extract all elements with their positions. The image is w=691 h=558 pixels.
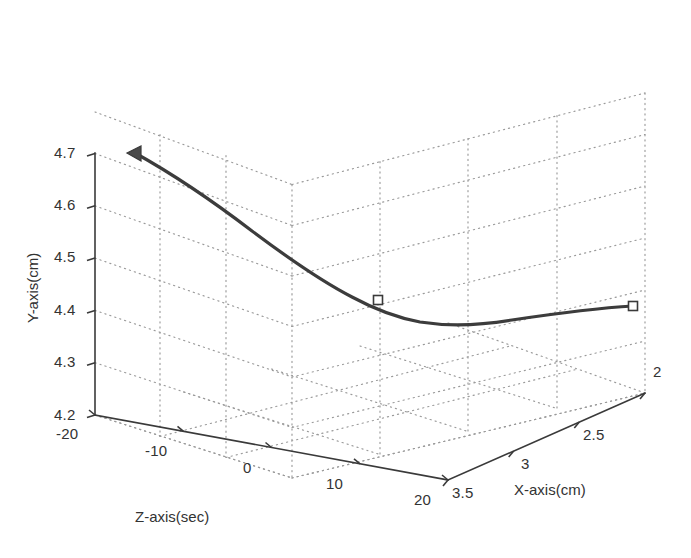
z-tick-label-20: 20 bbox=[414, 491, 431, 508]
y-tick-label-4-3: 4.3 bbox=[54, 353, 75, 370]
y-axis-title: Y-axis(cm) bbox=[24, 253, 41, 323]
y-tick-label-4-6: 4.6 bbox=[54, 196, 75, 213]
y-tick-label-4-5: 4.5 bbox=[54, 248, 75, 265]
x-axis-title: X-axis(cm) bbox=[514, 481, 586, 498]
x-tick-label-2-5: 2.5 bbox=[583, 426, 604, 443]
x-tick-label-2: 2 bbox=[653, 363, 662, 380]
plot-3d-axes bbox=[0, 0, 691, 558]
grid-back-plane-xy bbox=[95, 112, 292, 478]
x-axis-line bbox=[448, 393, 645, 480]
figure-canvas: 4.7 4.6 4.5 4.4 4.3 4.2 -20 -10 0 10 20 … bbox=[0, 0, 691, 558]
x-tick-label-3-5: 3.5 bbox=[452, 484, 473, 501]
y-tick-label-4-4: 4.4 bbox=[54, 301, 75, 318]
y-tick-label-4-2: 4.2 bbox=[54, 406, 75, 423]
z-axis-title: Z-axis(sec) bbox=[135, 508, 209, 525]
grid-back-plane-right-verticals bbox=[380, 93, 645, 455]
end-marker-square-icon bbox=[629, 302, 638, 311]
grid-back-plane-left-verticals bbox=[160, 135, 292, 479]
mid-marker-square-icon bbox=[374, 296, 383, 305]
z-tick-label-minus10: -10 bbox=[145, 442, 167, 459]
z-tick-label-minus20: -20 bbox=[56, 425, 78, 442]
y-axis-ticks bbox=[87, 154, 95, 418]
y-tick-label-4-7: 4.7 bbox=[54, 144, 75, 161]
grid-floor-plane bbox=[95, 323, 645, 478]
axis-lines bbox=[95, 153, 645, 480]
z-tick-label-10: 10 bbox=[326, 475, 343, 492]
x-tick-label-3: 3 bbox=[521, 455, 530, 472]
trajectory-curve bbox=[135, 153, 633, 325]
z-tick-label-0: 0 bbox=[243, 459, 252, 476]
start-marker-triangle-icon bbox=[127, 146, 141, 161]
